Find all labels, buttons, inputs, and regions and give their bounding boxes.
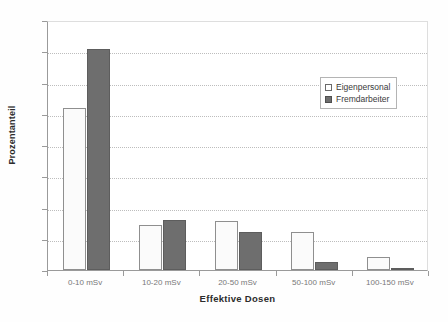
x-tick-mark [123,271,124,276]
x-axis-title: Effektive Dosen [47,293,428,304]
legend-label: Eigenpersonal [336,82,390,92]
chart-legend: Eigenpersonal Fremdarbeiter [320,77,397,109]
legend-swatch-eigenpersonal-icon [325,84,332,91]
legend-item: Fremdarbeiter [325,93,390,105]
bar-chart-figure: Prozentanteil 01020304050607080 0-10 mSv… [0,0,448,322]
bar [239,232,262,270]
x-tick-mark [199,271,200,276]
x-tick-mark [428,271,429,276]
bar [315,262,338,270]
bar [163,220,186,270]
bar [63,108,86,270]
y-axis-title: Prozentanteil [2,0,22,270]
bar [87,49,110,270]
plot-area [47,21,428,271]
bar [291,232,314,270]
x-tick-mark [47,271,48,276]
legend-swatch-fremdarbeiter-icon [325,96,332,103]
x-tick-label: 100-150 mSv [345,278,435,287]
legend-label: Fremdarbeiter [336,94,389,104]
bar [391,268,414,270]
bar [367,257,390,270]
bar [215,221,238,270]
x-tick-mark [352,271,353,276]
y-axis-title-text: Prozentanteil [7,105,17,164]
legend-item: Eigenpersonal [325,81,390,93]
x-tick-mark [276,271,277,276]
bar [139,225,162,270]
